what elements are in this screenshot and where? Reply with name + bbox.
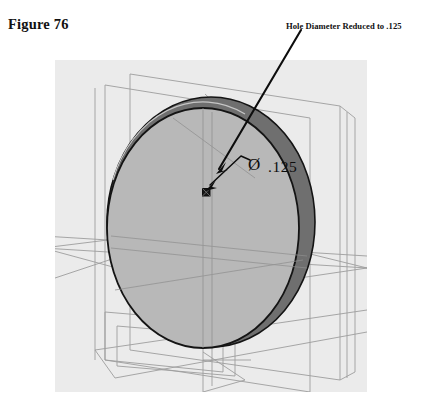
figure-page: Figure 76 Hole Diameter Reduced to .125 [0,0,422,416]
figure-label: Figure 76 [8,16,69,33]
hole-diameter-annotation-text: Hole Diameter Reduced to .125 [286,21,402,31]
cad-scene [55,60,367,392]
cad-drawing-canvas [55,60,367,392]
hole-marker [203,189,211,197]
